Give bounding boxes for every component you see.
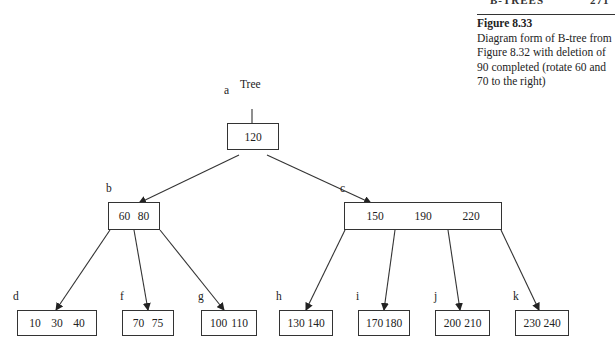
node-label-c: c [340, 182, 345, 194]
node-k: 230 240 [515, 310, 569, 336]
key: 180 [385, 317, 402, 329]
node-h: 130 140 [279, 310, 333, 336]
node-c: 150 190 220 [344, 202, 502, 230]
key: 210 [464, 317, 481, 329]
node-label-a: a [224, 84, 229, 96]
key: 120 [244, 131, 261, 143]
key: 80 [138, 210, 150, 222]
node-label-i: i [356, 290, 359, 302]
node-label-k: k [513, 290, 519, 302]
key: 30 [51, 317, 63, 329]
node-a: 120 [227, 123, 279, 150]
node-b: 60 80 [108, 202, 160, 230]
key: 140 [307, 317, 324, 329]
key: 200 [444, 317, 461, 329]
node-label-h: h [276, 290, 282, 302]
node-f: 70 75 [122, 310, 174, 336]
tree-edges [0, 0, 615, 353]
key: 40 [73, 317, 85, 329]
node-label-d: d [13, 290, 19, 302]
key: 60 [119, 210, 131, 222]
tree-pointer-label: Tree [240, 78, 261, 90]
node-label-f: f [120, 290, 124, 302]
node-label-g: g [198, 290, 204, 302]
node-d: 10 30 40 [17, 310, 97, 336]
key: 240 [543, 317, 560, 329]
node-label-b: b [106, 182, 112, 194]
key: 130 [287, 317, 304, 329]
key: 110 [231, 317, 248, 329]
key: 100 [210, 317, 227, 329]
key: 220 [462, 210, 479, 222]
key: 190 [414, 210, 431, 222]
node-i: 170 180 [358, 310, 410, 336]
key: 230 [523, 317, 540, 329]
node-label-j: j [434, 290, 437, 302]
node-j: 200 210 [435, 310, 490, 336]
key: 10 [29, 317, 41, 329]
key: 75 [152, 317, 164, 329]
key: 150 [366, 210, 383, 222]
node-g: 100 110 [201, 310, 257, 336]
key: 70 [133, 317, 145, 329]
key: 170 [366, 317, 383, 329]
